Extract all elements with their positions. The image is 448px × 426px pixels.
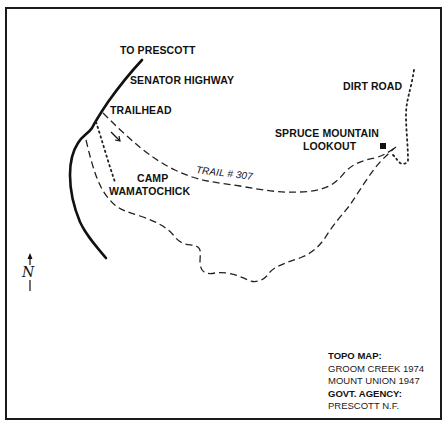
govt-agency-heading: GOVT. AGENCY: — [328, 388, 424, 401]
to-prescott-label: TO PRESCOTT — [120, 44, 196, 56]
lower-loop-trail-path — [86, 140, 396, 282]
camp-label-line2: WAMATOCHICK — [109, 185, 190, 197]
trailhead-label: TRAILHEAD — [110, 104, 172, 116]
direction-arrow-icon — [111, 132, 120, 141]
senator-highway-road — [70, 60, 142, 258]
topo-map-heading: TOPO MAP: — [328, 350, 424, 363]
topo-map-item: GROOM CREEK 1974 — [328, 363, 424, 376]
dirt-road-label: DIRT ROAD — [343, 80, 402, 92]
lookout-marker — [380, 143, 386, 149]
svg-text:N: N — [21, 264, 35, 280]
north-arrow-icon: N — [21, 253, 35, 291]
senator-highway-label: SENATOR HIGHWAY — [130, 74, 234, 86]
lookout-label-line1: SPRUCE MOUNTAIN — [275, 127, 379, 139]
lookout-label-line2: LOOKOUT — [303, 140, 356, 152]
camp-label-line1: CAMP — [137, 172, 168, 184]
topo-map-item: MOUNT UNION 1947 — [328, 375, 424, 388]
camp-spur-dotted-path — [96, 122, 115, 182]
govt-agency-item: PRESCOTT N.F. — [328, 400, 424, 413]
map-legend: TOPO MAP: GROOM CREEK 1974 MOUNT UNION 1… — [328, 350, 424, 413]
